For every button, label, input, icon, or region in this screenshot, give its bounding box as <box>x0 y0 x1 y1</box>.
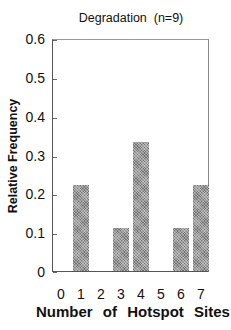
x-tick-label: 3 <box>117 286 125 302</box>
x-tick-label: 1 <box>77 286 85 302</box>
y-tick-label: 0.3 <box>26 148 45 164</box>
y-tick-label: 0.4 <box>26 109 45 125</box>
x-tick-label: 6 <box>177 286 185 302</box>
y-axis-title: Relative Frequency <box>6 99 20 214</box>
y-tick-label: 0.1 <box>26 225 45 241</box>
x-tick-label: 7 <box>197 286 205 302</box>
y-tick-mark <box>53 234 57 235</box>
x-tick-label: 0 <box>57 286 65 302</box>
y-tick-label: 0.5 <box>26 70 45 86</box>
bar-4 <box>133 142 149 271</box>
y-tick-mark <box>53 157 57 158</box>
x-tick-label: 2 <box>97 286 105 302</box>
y-tick-label: 0.2 <box>26 186 45 202</box>
bar-1 <box>73 185 89 271</box>
x-tick-label: 5 <box>157 286 165 302</box>
chart-title: Degradation (n=9) <box>52 11 210 25</box>
x-tick-label: 4 <box>137 286 145 302</box>
y-tick-mark <box>53 118 57 119</box>
y-tick-mark <box>53 195 57 196</box>
bar-3 <box>113 228 129 271</box>
y-tick-mark <box>53 79 57 80</box>
y-tick-mark <box>53 40 57 41</box>
x-axis-title: Number of Hotspot Sites <box>36 303 226 320</box>
bar-7 <box>193 185 209 271</box>
plot-area <box>52 39 209 272</box>
y-tick-label: 0.6 <box>26 31 45 47</box>
bar-6 <box>173 228 189 271</box>
y-tick-mark <box>53 272 57 273</box>
y-tick-label: 0 <box>37 264 45 280</box>
